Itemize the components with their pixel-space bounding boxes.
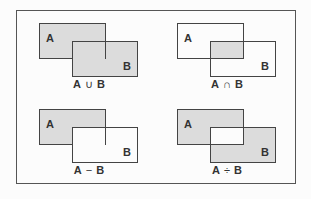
caption-left: A xyxy=(212,164,220,176)
caption-left: A xyxy=(211,78,219,90)
set-a-label: A xyxy=(46,118,54,130)
set-a-label: A xyxy=(184,118,192,130)
panel-symmetric-difference: A B A÷B xyxy=(155,97,295,187)
set-b-label: B xyxy=(123,60,131,72)
caption-difference: A−B xyxy=(61,164,117,176)
caption-union: A∪B xyxy=(61,78,117,91)
diagram-frame: A B A∪B A B A∩B A B A−B xyxy=(16,10,296,184)
overlap-outline xyxy=(210,41,244,59)
set-a-label: A xyxy=(184,32,192,44)
symmetric-difference-operator: ÷ xyxy=(220,164,234,176)
panel-intersection: A B A∩B xyxy=(155,11,295,101)
set-b-label: B xyxy=(261,146,269,158)
panel-difference: A B A−B xyxy=(17,97,157,187)
set-a-label: A xyxy=(46,32,54,44)
caption-right: B xyxy=(96,164,104,176)
panel-union: A B A∪B xyxy=(17,11,157,101)
set-b-label: B xyxy=(261,60,269,72)
difference-operator: − xyxy=(82,164,96,176)
caption-right: B xyxy=(234,164,242,176)
intersection-operator: ∩ xyxy=(219,78,235,90)
caption-intersection: A∩B xyxy=(199,78,255,90)
overlap-empty xyxy=(210,127,244,145)
overlap-outline xyxy=(72,127,106,145)
caption-left: A xyxy=(74,164,82,176)
overlap-outline xyxy=(72,41,106,59)
caption-right: B xyxy=(235,78,243,90)
union-operator: ∪ xyxy=(81,78,97,90)
caption-symmetric-difference: A÷B xyxy=(199,164,255,176)
set-b-label: B xyxy=(123,146,131,158)
caption-left: A xyxy=(73,78,81,90)
caption-right: B xyxy=(97,78,105,90)
